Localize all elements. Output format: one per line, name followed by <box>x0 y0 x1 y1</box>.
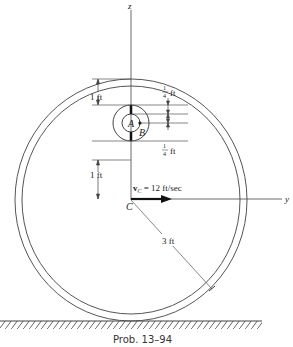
svg-text:ft: ft <box>170 146 176 156</box>
svg-text:4: 4 <box>163 151 166 157</box>
caption: Prob. 13–94 <box>113 334 172 345</box>
velocity-label: vC = 12 ft/sec <box>133 183 182 194</box>
z-axis-label: z <box>127 1 132 11</box>
svg-text:4: 4 <box>163 93 166 99</box>
quarter-bottom-label: 1 4 ft <box>162 143 176 157</box>
dim-bottom-label: 1 ft <box>90 170 103 180</box>
dim-top-label: 1 ft <box>90 92 103 102</box>
svg-text:ft: ft <box>170 88 176 98</box>
y-axis-label: y <box>284 194 289 204</box>
point-b-label: B <box>139 127 145 138</box>
svg-text:1: 1 <box>163 143 166 149</box>
point-a-label: A <box>127 118 135 129</box>
wheel-diagram: 1 ft 1 ft 1 4 ft 1 4 ft A B z y C vC = <box>0 0 293 347</box>
velocity-arrow <box>131 195 172 203</box>
quarter-top-label: 1 4 ft <box>162 85 176 99</box>
origin-label: C <box>126 201 133 212</box>
svg-text:1: 1 <box>163 85 166 91</box>
ground <box>0 321 262 329</box>
radius-label: 3 ft <box>162 236 175 246</box>
